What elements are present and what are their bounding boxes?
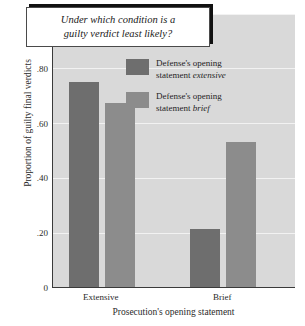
y-axis-tick-label: .40 bbox=[14, 173, 48, 183]
legend-label: Defense's openingstatement extensive bbox=[156, 58, 226, 81]
bar bbox=[105, 103, 135, 287]
x-axis-tick-label: Extensive bbox=[83, 292, 119, 302]
chart-title-line-1: Under which condition is a bbox=[61, 14, 175, 25]
chart-title-text: Under which condition is a guilty verdic… bbox=[55, 13, 181, 41]
legend-item: Defense's openingstatement brief bbox=[126, 91, 241, 114]
y-axis-tick-label: .80 bbox=[14, 64, 48, 74]
bar bbox=[226, 142, 256, 287]
y-axis-tick-label: 0 bbox=[14, 283, 48, 293]
bar bbox=[69, 82, 99, 288]
legend-label-line-2: statement extensive bbox=[156, 70, 226, 82]
y-axis-tick-labels: 0.20.40.60.801.00 bbox=[14, 0, 48, 326]
chart-title-box: Under which condition is a guilty verdic… bbox=[26, 7, 210, 47]
x-axis-tick-label: Brief bbox=[213, 292, 232, 302]
legend-swatch bbox=[126, 92, 149, 108]
legend-label: Defense's openingstatement brief bbox=[156, 91, 222, 114]
y-axis-tick-label: .20 bbox=[14, 228, 48, 238]
x-axis-title: Prosecution's opening statement bbox=[52, 307, 295, 317]
legend-label-line-1: Defense's opening bbox=[156, 58, 226, 70]
chart-title-line-2: guilty verdict least likely? bbox=[61, 27, 175, 41]
y-axis-tick-label: .60 bbox=[14, 119, 48, 129]
bar-chart-figure: Proportion of guilty final verdicts 0.20… bbox=[0, 0, 305, 326]
plot-area bbox=[52, 14, 295, 288]
legend-item: Defense's openingstatement extensive bbox=[126, 58, 241, 81]
bar bbox=[190, 229, 220, 287]
legend-label-line-1: Defense's opening bbox=[156, 91, 222, 103]
legend-label-line-2: statement brief bbox=[156, 103, 222, 115]
legend: Defense's openingstatement extensiveDefe… bbox=[126, 58, 241, 124]
legend-swatch bbox=[126, 59, 149, 75]
